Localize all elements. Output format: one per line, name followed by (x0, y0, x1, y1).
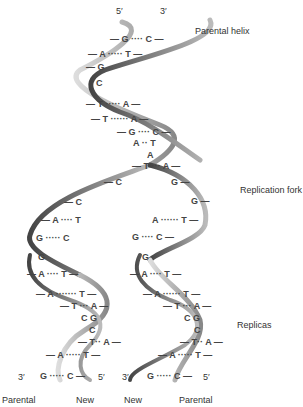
base-pair: A (147, 151, 154, 160)
left-replica-3prime: 3′ (18, 372, 25, 382)
replica-base-pair: — T ··· A — (60, 302, 108, 311)
replica-base-pair: C G (184, 314, 200, 323)
replica-base-pair: C (194, 326, 201, 335)
replica-base-pair: — A ···· T — (130, 270, 181, 279)
top-3prime-label: 3′ (160, 6, 167, 16)
base-pair: — T ······ A — (91, 115, 148, 124)
fork-base: A ······ T — (152, 216, 198, 225)
replica-base-pair: — A ······ T — (143, 290, 200, 299)
fork-base: — A ···· T (41, 216, 81, 225)
strand-label-new-right: New (124, 395, 142, 405)
fork-base: — C (64, 198, 82, 207)
left-replica-5prime: 5′ (98, 372, 105, 382)
right-replica-5prime: 5′ (203, 372, 210, 382)
base-pair: — G ···· C — (117, 128, 171, 137)
replica-base-pair: — T ··· A — (163, 302, 211, 311)
base-pair: — T ····· A — (86, 100, 140, 109)
replica-base-pair: G ····· C — (147, 372, 192, 381)
replica-base-pair: — A ···· T — (27, 270, 78, 279)
fork-base: G — (171, 178, 190, 187)
right-replica-3prime: 3′ (122, 372, 129, 382)
parental-helix-label: Parental helix (195, 26, 250, 36)
fork-base: G ····· C (36, 234, 70, 243)
replica-base-pair: — T·· A — (78, 338, 121, 347)
replica-base-pair: C (89, 326, 96, 335)
base-pair: A ·· T (133, 139, 156, 148)
base-pair: — T ··· A — (132, 162, 180, 171)
fork-base: G ···· C — (132, 233, 174, 242)
replica-base-pair: — A ····· T — (158, 351, 212, 360)
replica-base-pair: — A ····· T — (46, 351, 100, 360)
replica-base-pair: — T·· A — (180, 338, 223, 347)
replication-fork-label: Replication fork (240, 185, 302, 195)
fork-base: — C (104, 178, 122, 187)
replica-base-pair: G ····· C — (40, 372, 85, 381)
top-5prime-label: 5′ (116, 6, 123, 16)
base-pair: — G (86, 63, 105, 72)
fork-base: G — (191, 197, 210, 206)
replica-base-pair: C G (81, 314, 97, 323)
base-pair: — A ····· T — (88, 50, 142, 59)
replica-base-pair: G (142, 253, 149, 262)
replica-base-pair: — A ······· T — (36, 290, 96, 299)
strand-label-parental-right: Parental (179, 395, 213, 405)
base-pair: C (96, 79, 103, 88)
strand-label-parental-left: Parental (2, 395, 36, 405)
replica-base-pair: G (38, 253, 45, 262)
base-pair: — G ···· C — (110, 35, 164, 44)
replicas-label: Replicas (237, 320, 272, 330)
strand-label-new-left: New (76, 395, 94, 405)
dna-diagram (0, 0, 303, 407)
